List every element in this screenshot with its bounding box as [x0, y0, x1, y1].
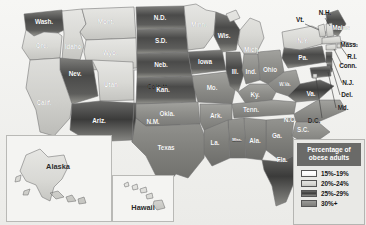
- legend-label-30-plus: 30%+: [321, 200, 338, 207]
- state-ore[interactable]: [22, 30, 62, 60]
- hawaii-label: Hawaii: [131, 203, 154, 212]
- state-ala[interactable]: [244, 118, 266, 160]
- state-iowa[interactable]: [188, 50, 226, 74]
- legend-title-line2: obese adults: [299, 154, 359, 162]
- state-okla[interactable]: [136, 102, 200, 126]
- state-kan[interactable]: [136, 76, 196, 104]
- state-sd[interactable]: [137, 28, 188, 54]
- state-miss[interactable]: [228, 118, 246, 158]
- legend-swatch-20-24: [301, 180, 317, 187]
- hawaii-inset-shape[interactable]: [112, 175, 172, 220]
- state-ri[interactable]: [337, 44, 341, 48]
- state-conn[interactable]: [326, 44, 336, 50]
- legend-label-25-29: 25%-29%: [321, 190, 349, 197]
- obesity-choropleth-map: Alaska Hawaii Wash. Ore. Idaho Mont. Wyo…: [0, 0, 366, 225]
- state-ind[interactable]: [242, 54, 260, 84]
- state-mont[interactable]: [80, 7, 136, 40]
- state-nd[interactable]: [136, 6, 186, 30]
- alaska-label: Alaska: [46, 162, 70, 171]
- state-neb[interactable]: [137, 52, 192, 78]
- legend-title: Percentage of obese adults: [297, 143, 361, 166]
- legend-row-15-19[interactable]: 15%-19%: [301, 170, 364, 177]
- legend: Percentage of obese adults 15%-19% 20%-2…: [293, 139, 365, 225]
- legend-row-25-29[interactable]: 25%-29%: [301, 190, 364, 197]
- legend-row-20-24[interactable]: 20%-24%: [301, 180, 364, 187]
- legend-label-20-24: 20%-24%: [321, 180, 349, 187]
- legend-label-15-19: 15%-19%: [321, 170, 349, 177]
- state-nj[interactable]: [326, 52, 332, 64]
- legend-swatch-25-29: [301, 190, 317, 197]
- alaska-inset-shape[interactable]: [6, 135, 110, 220]
- legend-row-30-plus[interactable]: 30%+: [301, 200, 364, 207]
- legend-swatch-30-plus: [301, 200, 317, 207]
- state-dc[interactable]: [313, 74, 317, 78]
- legend-swatch-15-19: [301, 170, 317, 177]
- legend-title-line1: Percentage of: [299, 146, 359, 154]
